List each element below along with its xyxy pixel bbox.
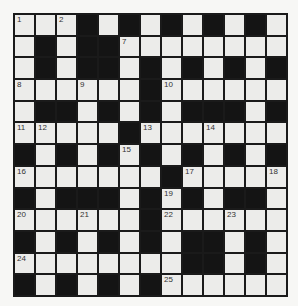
letter-cell[interactable]: 1 — [15, 15, 34, 35]
letter-cell[interactable] — [99, 15, 118, 35]
letter-cell[interactable] — [57, 123, 76, 143]
letter-cell[interactable]: 25 — [162, 275, 181, 295]
letter-cell[interactable] — [141, 254, 160, 274]
letter-cell[interactable]: 20 — [15, 210, 34, 230]
letter-cell[interactable] — [183, 80, 202, 100]
letter-cell[interactable] — [120, 80, 139, 100]
letter-cell[interactable] — [225, 15, 244, 35]
letter-cell[interactable] — [99, 167, 118, 187]
letter-cell[interactable] — [246, 167, 265, 187]
letter-cell[interactable] — [36, 189, 55, 209]
letter-cell[interactable] — [204, 80, 223, 100]
letter-cell[interactable] — [141, 15, 160, 35]
letter-cell[interactable] — [162, 37, 181, 57]
letter-cell[interactable] — [267, 123, 286, 143]
letter-cell[interactable] — [57, 167, 76, 187]
letter-cell[interactable] — [246, 275, 265, 295]
letter-cell[interactable]: 8 — [15, 80, 34, 100]
letter-cell[interactable] — [141, 37, 160, 57]
letter-cell[interactable] — [78, 275, 97, 295]
letter-cell[interactable]: 18 — [267, 167, 286, 187]
letter-cell[interactable] — [78, 167, 97, 187]
letter-cell[interactable]: 11 — [15, 123, 34, 143]
letter-cell[interactable] — [162, 145, 181, 165]
letter-cell[interactable] — [36, 254, 55, 274]
letter-cell[interactable] — [36, 232, 55, 252]
letter-cell[interactable]: 24 — [15, 254, 34, 274]
letter-cell[interactable] — [99, 254, 118, 274]
letter-cell[interactable] — [78, 123, 97, 143]
letter-cell[interactable] — [267, 189, 286, 209]
letter-cell[interactable] — [246, 145, 265, 165]
letter-cell[interactable] — [141, 167, 160, 187]
letter-cell[interactable] — [183, 210, 202, 230]
letter-cell[interactable] — [225, 167, 244, 187]
letter-cell[interactable] — [120, 102, 139, 122]
letter-cell[interactable] — [246, 210, 265, 230]
letter-cell[interactable]: 14 — [204, 123, 223, 143]
letter-cell[interactable] — [120, 275, 139, 295]
letter-cell[interactable] — [99, 210, 118, 230]
letter-cell[interactable] — [78, 102, 97, 122]
letter-cell[interactable] — [120, 189, 139, 209]
letter-cell[interactable] — [183, 275, 202, 295]
letter-cell[interactable] — [246, 123, 265, 143]
letter-cell[interactable] — [78, 254, 97, 274]
letter-cell[interactable] — [183, 37, 202, 57]
letter-cell[interactable] — [225, 80, 244, 100]
letter-cell[interactable] — [120, 254, 139, 274]
letter-cell[interactable] — [57, 37, 76, 57]
letter-cell[interactable] — [162, 123, 181, 143]
letter-cell[interactable] — [225, 37, 244, 57]
letter-cell[interactable]: 23 — [225, 210, 244, 230]
letter-cell[interactable]: 21 — [78, 210, 97, 230]
letter-cell[interactable] — [120, 232, 139, 252]
letter-cell[interactable]: 16 — [15, 167, 34, 187]
letter-cell[interactable]: 13 — [141, 123, 160, 143]
letter-cell[interactable] — [204, 275, 223, 295]
letter-cell[interactable] — [267, 15, 286, 35]
letter-cell[interactable] — [183, 15, 202, 35]
letter-cell[interactable] — [267, 232, 286, 252]
letter-cell[interactable] — [162, 102, 181, 122]
letter-cell[interactable] — [267, 210, 286, 230]
letter-cell[interactable] — [204, 189, 223, 209]
letter-cell[interactable] — [57, 254, 76, 274]
letter-cell[interactable] — [225, 123, 244, 143]
letter-cell[interactable] — [204, 167, 223, 187]
letter-cell[interactable] — [36, 80, 55, 100]
letter-cell[interactable] — [246, 102, 265, 122]
letter-cell[interactable] — [267, 37, 286, 57]
letter-cell[interactable] — [57, 80, 76, 100]
letter-cell[interactable]: 9 — [78, 80, 97, 100]
letter-cell[interactable]: 12 — [36, 123, 55, 143]
letter-cell[interactable] — [36, 145, 55, 165]
letter-cell[interactable] — [183, 123, 202, 143]
letter-cell[interactable] — [36, 167, 55, 187]
letter-cell[interactable] — [99, 80, 118, 100]
letter-cell[interactable] — [225, 254, 244, 274]
letter-cell[interactable] — [225, 275, 244, 295]
letter-cell[interactable] — [36, 210, 55, 230]
letter-cell[interactable] — [162, 232, 181, 252]
letter-cell[interactable] — [57, 210, 76, 230]
letter-cell[interactable] — [267, 275, 286, 295]
letter-cell[interactable] — [162, 254, 181, 274]
letter-cell[interactable] — [267, 254, 286, 274]
letter-cell[interactable]: 22 — [162, 210, 181, 230]
letter-cell[interactable] — [78, 145, 97, 165]
letter-cell[interactable] — [120, 167, 139, 187]
letter-cell[interactable] — [15, 37, 34, 57]
letter-cell[interactable] — [162, 58, 181, 78]
letter-cell[interactable] — [15, 58, 34, 78]
letter-cell[interactable] — [57, 58, 76, 78]
letter-cell[interactable]: 15 — [120, 145, 139, 165]
letter-cell[interactable] — [204, 37, 223, 57]
letter-cell[interactable] — [120, 210, 139, 230]
letter-cell[interactable] — [78, 232, 97, 252]
letter-cell[interactable] — [36, 15, 55, 35]
letter-cell[interactable] — [267, 80, 286, 100]
letter-cell[interactable]: 10 — [162, 80, 181, 100]
letter-cell[interactable] — [99, 123, 118, 143]
letter-cell[interactable] — [246, 37, 265, 57]
